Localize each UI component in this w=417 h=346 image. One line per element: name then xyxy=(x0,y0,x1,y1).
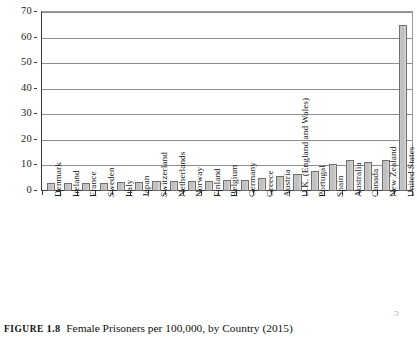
x-axis-label: United States xyxy=(407,146,416,197)
y-tick-label: 60 xyxy=(21,32,32,42)
scan-artifact-glyph: ɔ xyxy=(394,306,399,318)
x-axis: DenmarkIrelandFranceSwedenItalyJapanSwit… xyxy=(42,197,412,297)
x-axis-label: Portugal xyxy=(318,165,327,197)
x-axis-label: Sweden xyxy=(107,167,116,197)
bar-slot xyxy=(329,12,337,191)
x-axis-label: Norway xyxy=(195,167,204,197)
x-axis-label: Ireland xyxy=(72,170,81,197)
x-axis-label: New Zealand xyxy=(389,147,398,197)
bar-slot xyxy=(188,12,196,191)
bar-chart: 010203040506070 DenmarkIrelandFranceSwed… xyxy=(0,0,417,300)
x-axis-label: Switzerland xyxy=(160,152,169,197)
y-tick-mark xyxy=(34,113,37,114)
y-axis: 010203040506070 xyxy=(0,11,38,191)
y-tick-mark xyxy=(34,37,37,38)
figure-caption: FIGURE 1.8 Female Prisoners per 100,000,… xyxy=(4,322,413,336)
x-axis-label: Greece xyxy=(266,170,275,197)
y-tick-label: 40 xyxy=(21,83,32,93)
x-axis-label: Finland xyxy=(213,168,222,197)
x-axis-label: Austria xyxy=(283,169,292,197)
bar-slot xyxy=(276,12,284,191)
y-tick-mark xyxy=(34,62,37,63)
x-axis-label: Germany xyxy=(248,162,257,197)
figure-container: 010203040506070 DenmarkIrelandFranceSwed… xyxy=(0,0,417,346)
y-tick-label: 20 xyxy=(21,134,32,144)
y-tick-label: 70 xyxy=(21,6,32,16)
y-tick-mark xyxy=(34,190,37,191)
y-tick-mark xyxy=(34,139,37,140)
bar-slot xyxy=(117,12,125,191)
y-tick-label: 30 xyxy=(21,108,32,118)
bar-slot xyxy=(100,12,108,191)
y-tick-mark xyxy=(34,11,37,12)
bar-slot xyxy=(258,12,266,191)
x-axis-label: Australia xyxy=(354,162,363,197)
y-tick-label: 0 xyxy=(27,185,32,195)
x-axis-label: Italy xyxy=(125,180,134,197)
y-tick-label: 50 xyxy=(21,57,32,67)
y-tick-mark xyxy=(34,164,37,165)
bar-slot xyxy=(64,12,72,191)
x-axis-label: U.K. (England and Wales) xyxy=(301,98,310,197)
x-axis-label: France xyxy=(89,171,98,197)
caption-figure-number: 1.8 xyxy=(47,323,61,334)
x-axis-label: Belgium xyxy=(230,165,239,197)
x-axis-label: Canada xyxy=(371,169,380,197)
x-axis-label: Denmark xyxy=(54,162,63,197)
x-tick xyxy=(42,191,43,195)
bar-slot xyxy=(364,12,372,191)
bar-slot xyxy=(205,12,213,191)
x-axis-label: Netherlands xyxy=(178,152,187,198)
x-axis-label: Spain xyxy=(336,176,345,197)
caption-text: Female Prisoners per 100,000, by Country… xyxy=(66,322,293,334)
y-tick-mark xyxy=(34,88,37,89)
caption-figure-label: FIGURE xyxy=(4,324,44,334)
bar-slot xyxy=(82,12,90,191)
y-tick-label: 10 xyxy=(21,159,32,169)
bar-slot xyxy=(135,12,143,191)
x-axis-label: Japan xyxy=(142,176,151,197)
